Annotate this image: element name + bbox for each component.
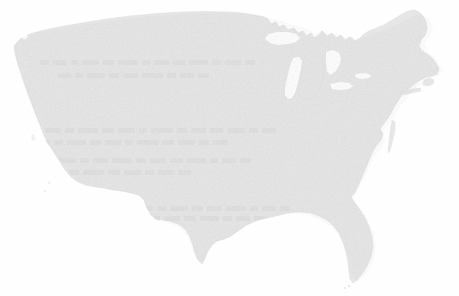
florida-keys	[344, 287, 346, 289]
salton-sea-cutout	[48, 182, 51, 185]
florida-keys	[348, 285, 350, 287]
us-map-silhouette	[0, 0, 459, 296]
san-francisco-bay-cutout	[31, 134, 35, 141]
coastal-island	[44, 190, 46, 192]
map-canvas	[0, 0, 459, 296]
